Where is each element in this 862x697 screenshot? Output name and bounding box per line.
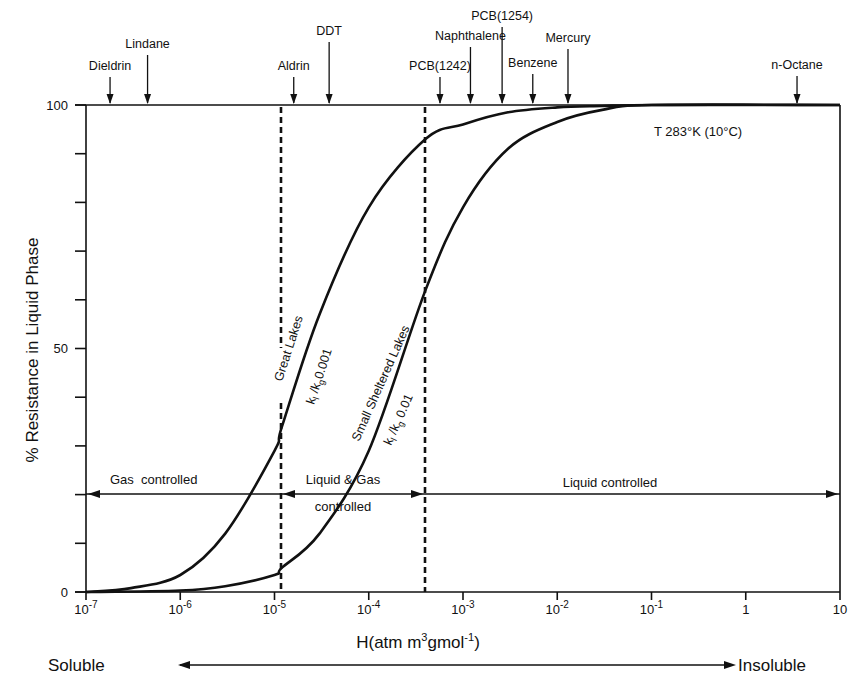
x-axis-title: H(atm m3gmol-1) [356,631,480,652]
compound-label: Aldrin [278,59,310,73]
gas-controlled-label: Gas controlled [110,472,197,487]
arrow-left-icon [283,490,295,498]
arrow-down-icon [794,94,801,104]
compound-label: DDT [316,24,342,38]
small-lakes-curve [86,105,840,592]
region-arrows: Gas controlled Liquid & Gas controlled L… [86,472,840,514]
compound-label: PCB(1242) [409,59,471,73]
arrow-down-icon [436,94,443,104]
arrow-down-icon [564,94,571,104]
x-tick-label: 10-6 [169,599,193,617]
arrow-right-icon [724,661,736,669]
arrow-down-icon [467,94,474,104]
arrow-left-icon [88,490,100,498]
temperature-label: T 283°K (10°C) [654,124,742,139]
compound-label: Dieldrin [89,59,131,73]
liquid-gas-label-1: Liquid & Gas [306,472,381,487]
arrow-right-icon [826,490,838,498]
x-tick-label: 10-7 [74,599,98,617]
compound-label: Naphthalene [435,29,506,43]
insoluble-label: Insoluble [738,656,806,675]
y-tick-100: 100 [46,98,68,113]
axes: 10-710-610-510-410-310-210-1110 [74,105,847,617]
x-tick-label: 10-3 [451,599,475,617]
compound-label: PCB(1254) [471,9,533,23]
x-tick-label: 10-5 [263,599,287,617]
compound-label: Mercury [545,31,591,45]
arrow-down-icon [326,94,333,104]
arrow-down-icon [499,94,506,104]
great-lakes-curve [86,105,840,592]
y-tick-0: 0 [61,585,68,600]
liquid-controlled-label: Liquid controlled [563,475,658,490]
great-lakes-ratio: kl /kg0.001 [304,347,337,407]
x-ticks: 10-710-610-510-410-310-210-1110 [74,592,847,617]
great-lakes-label: Great Lakes [272,314,306,383]
x-tick-label: 10-4 [357,599,381,617]
compound-label: n-Octane [771,58,822,72]
y-tick-50: 50 [54,341,68,356]
compound-label: Benzene [508,56,557,70]
soluble-label: Soluble [48,656,105,675]
arrow-down-icon [529,94,536,104]
compound-label: Lindane [125,37,170,51]
y-ticks [75,105,86,592]
x-tick-label: 10 [833,602,847,617]
henry-law-chart: 10-710-610-510-410-310-210-1110 100 50 0… [0,0,862,697]
arrow-right-icon [411,490,423,498]
x-tick-label: 1 [742,602,749,617]
compound-markers: DieldrinLindaneAldrinDDTPCB(1242)Naphtha… [89,9,823,104]
x-tick-label: 10-1 [640,599,664,617]
x-tick-label: 10-2 [546,599,570,617]
arrow-down-icon [144,94,151,104]
arrow-down-icon [107,94,114,104]
arrow-down-icon [290,94,297,104]
arrow-left-icon [178,661,190,669]
solubility-arrow: Soluble Insoluble [48,656,806,675]
y-axis-title: % Resistance in Liquid Phase [23,238,42,463]
